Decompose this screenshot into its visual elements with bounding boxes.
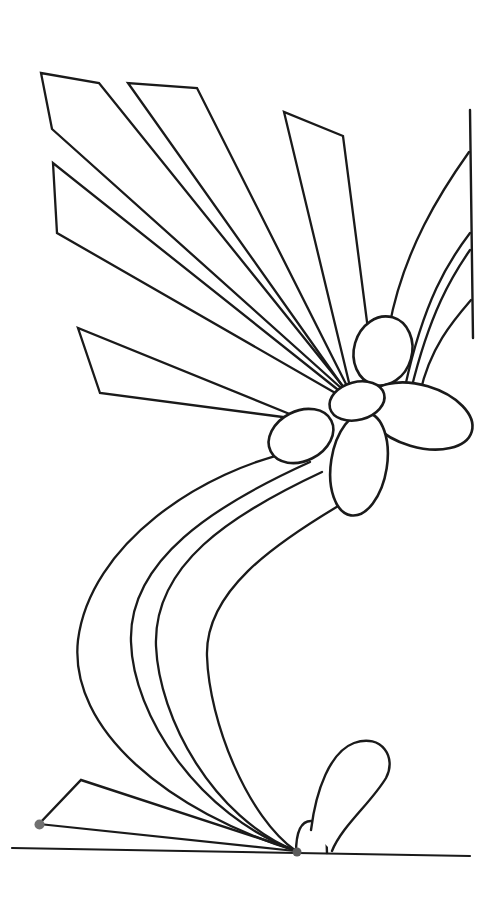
stem-curve-3 [156,472,322,851]
anchor-dot-left [35,820,45,830]
border-line-right [470,110,473,338]
branch-curve-3 [411,250,470,390]
drawing-svg [0,0,490,902]
ground-line [12,848,470,856]
bud-teardrop-petal [311,741,390,851]
ray-middle [128,83,350,392]
anchor-dot-center [293,848,302,857]
flower-petal-top [345,309,420,392]
ray-thin-left [53,163,344,398]
ray-kite-upper-left [41,73,350,396]
ray-horizontal-left [78,328,298,419]
line-drawing-stage [0,0,490,902]
branch-curve-1 [389,152,469,328]
branch-curve-4 [420,300,471,393]
